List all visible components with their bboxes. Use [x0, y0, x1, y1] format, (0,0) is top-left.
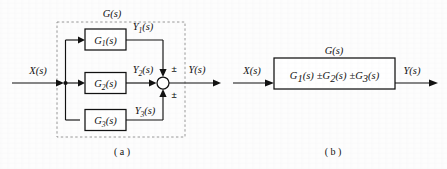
panel-a-summing-junction[interactable] — [157, 77, 169, 89]
panel-a-signal-label-y1: Y1(s) — [133, 21, 154, 35]
block-diagram-svg: G(s) X(s) G1(s) Y1(s) — [0, 0, 447, 169]
panel-a-output-arrowhead — [213, 79, 221, 86]
panel-a-output-label: Y(s) — [189, 64, 206, 76]
panel-a: G(s) X(s) G1(s) Y1(s) — [12, 8, 221, 158]
panel-a-branch2-sum-arrowhead — [149, 80, 157, 87]
panel-a-branch2-arrowhead — [78, 80, 85, 87]
panel-b-output-arrowhead — [429, 79, 438, 86]
panel-a-branch3-sum-arrowhead — [159, 89, 166, 97]
panel-b-output-label: Y(s) — [404, 65, 421, 77]
panel-a-signal-label-y2: Y2(s) — [133, 64, 154, 78]
panel-a-caption: ( a ) — [114, 146, 130, 158]
panel-b-input-label: X(s) — [242, 65, 261, 77]
panel-a-sign-top: ± — [171, 63, 176, 74]
panel-a-group-label: G(s) — [103, 8, 122, 20]
panel-a-input-label: X(s) — [28, 65, 47, 77]
panel-b-input-arrowhead — [265, 79, 274, 86]
panel-a-branch1-sum-arrowhead — [159, 69, 166, 77]
panel-a-branch1-arrowhead — [78, 37, 85, 44]
panel-b-group-label: G(s) — [325, 45, 344, 57]
panel-a-signal-label-y3: Y3(s) — [135, 105, 156, 119]
panel-b: G(s) X(s) G1(s)±G2(s)±G3(s) Y(s) ( b ) — [233, 45, 438, 158]
figure-container: G(s) X(s) G1(s) Y1(s) — [0, 0, 447, 169]
panel-a-input-arrowhead — [56, 79, 64, 86]
panel-a-sign-bottom: ± — [171, 89, 176, 100]
panel-b-caption: ( b ) — [325, 146, 342, 158]
